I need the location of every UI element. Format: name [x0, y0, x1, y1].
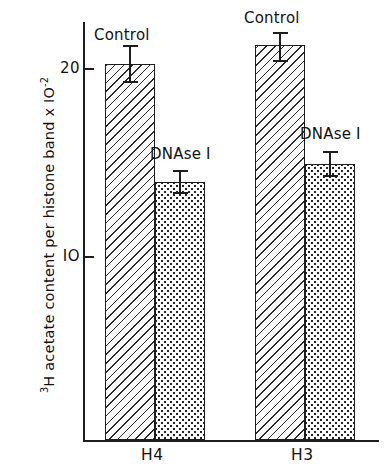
error-bar-cap-top [123, 45, 138, 47]
series-label-dnase-h3: DNAse I [300, 125, 361, 143]
error-bar-h3-control [255, 32, 305, 62]
error-bar-stem [129, 45, 131, 83]
error-bar-cap-bottom [173, 192, 188, 194]
x-category-label-h3: H3 [291, 446, 314, 464]
bar-h3-dnase [305, 164, 355, 440]
figure-panel: 3H acetate content per histone band x IO… [0, 0, 390, 476]
error-bar-cap-top [273, 32, 288, 34]
x-category-label-h4: H4 [141, 446, 164, 464]
error-bar-h4-dnase [155, 170, 205, 194]
y-tick-mark-10 [85, 256, 94, 258]
y-axis-line [83, 22, 85, 442]
error-bar-cap-top [323, 151, 338, 153]
error-bar-cap-bottom [273, 60, 288, 62]
y-axis-label-superscript-suffix: -2 [39, 77, 50, 87]
error-bar-cap-bottom [123, 81, 138, 83]
series-label-dnase-h4: DNAse I [150, 145, 211, 163]
error-bar-stem [279, 32, 281, 62]
y-axis-label: 3H acetate content per histone band x IO… [39, 33, 57, 437]
bar-h3-control [255, 45, 305, 440]
error-bar-h4-control [105, 45, 155, 83]
error-bar-stem [329, 151, 331, 177]
bar-h4-dnase [155, 182, 205, 440]
y-tick-label-20: 20 [40, 59, 80, 77]
error-bar-cap-bottom [323, 175, 338, 177]
bar-h4-control [105, 64, 155, 440]
y-tick-mark-20 [85, 68, 94, 70]
error-bar-stem [179, 170, 181, 194]
series-label-control-h3: Control [244, 9, 300, 27]
series-label-control-h4: Control [94, 26, 150, 44]
y-tick-label-10: IO [40, 247, 80, 265]
x-axis-line [83, 440, 379, 442]
error-bar-h3-dnase [305, 151, 355, 177]
error-bar-cap-top [173, 170, 188, 172]
y-axis-label-main: H acetate content per histone band x IO [41, 87, 57, 387]
y-axis-label-superscript-prefix: 3 [39, 387, 50, 393]
